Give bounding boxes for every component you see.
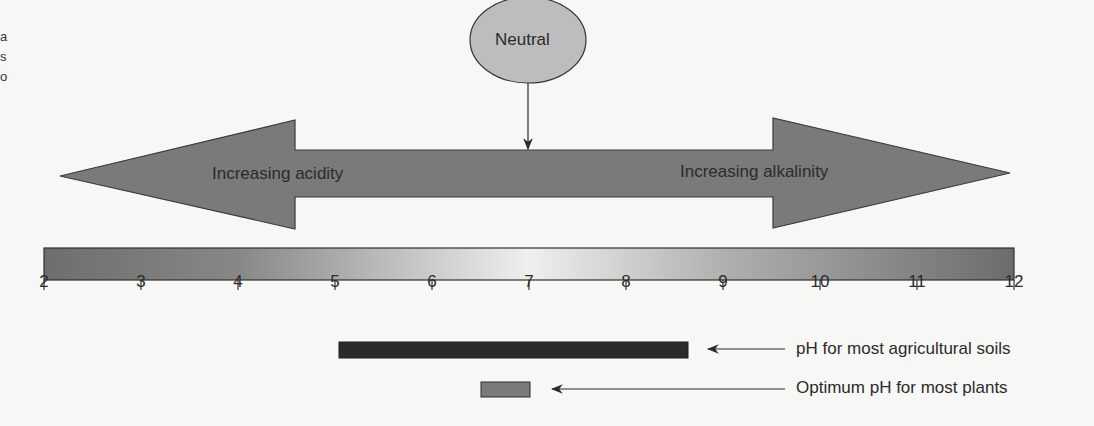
increasing-alkalinity-label: Increasing alkalinity [680,162,828,182]
tick-label-5: 5 [315,272,355,292]
agricultural-soils-range-bar [339,342,688,358]
optimum-plants-label: Optimum pH for most plants [796,378,1008,398]
tick-label-9: 9 [703,272,743,292]
tick-label-8: 8 [606,272,646,292]
tick-label-12: 12 [994,272,1034,292]
optimum-plants-range-bar [481,382,530,397]
tick-label-10: 10 [800,272,840,292]
neutral-label: Neutral [495,30,550,50]
agricultural-soils-label: pH for most agricultural soils [796,339,1010,359]
tick-label-3: 3 [121,272,161,292]
ph-diagram [0,0,1094,426]
increasing-acidity-label: Increasing acidity [212,164,343,184]
double-arrow-acidity-alkalinity [60,118,1010,229]
tick-label-2: 2 [24,272,64,292]
tick-label-7: 7 [509,272,549,292]
tick-label-11: 11 [897,272,937,292]
tick-label-4: 4 [218,272,258,292]
tick-label-6: 6 [412,272,452,292]
